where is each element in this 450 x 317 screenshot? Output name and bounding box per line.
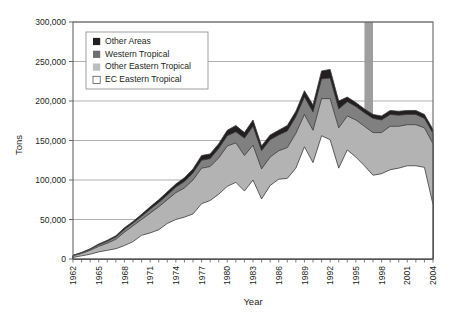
x-axis-tick-label: 1986: [274, 266, 284, 285]
legend-label-western-tropical: Western Tropical: [105, 49, 169, 59]
chart-legend: Other AreasWestern TropicalOther Eastern…: [86, 32, 208, 89]
y-axis-tick-label: 0: [61, 254, 66, 264]
y-axis-tick-label: 50,000: [40, 215, 66, 225]
x-axis-title: Year: [243, 296, 262, 307]
x-axis-tick-label: 1965: [94, 266, 104, 285]
y-axis-tick-label: 250,000: [35, 57, 66, 67]
y-axis-tick-label: 200,000: [35, 96, 66, 106]
x-axis-tick-label: 2004: [428, 266, 438, 285]
legend-swatch-western-tropical: [93, 51, 100, 58]
x-axis-tick-label: 1992: [325, 266, 335, 285]
x-axis-tick-label: 1962: [68, 266, 78, 285]
legend-label-other-areas: Other Areas: [105, 36, 151, 46]
x-axis-tick-label: 1977: [197, 266, 207, 285]
x-axis-tick-label: 1971: [145, 266, 155, 285]
y-axis-tick-label: 300,000: [35, 17, 66, 27]
x-axis-tick-label: 1983: [248, 266, 258, 285]
stacked-area-chart: 050,000100,000150,000200,000250,000300,0…: [0, 0, 450, 317]
y-axis-title: Tons: [13, 135, 24, 155]
x-axis-tick-label: 1998: [377, 266, 387, 285]
legend-swatch-other-areas: [93, 38, 100, 45]
legend-swatch-other-eastern-tropical: [93, 64, 100, 71]
chart-container: 050,000100,000150,000200,000250,000300,0…: [0, 0, 450, 317]
legend-swatch-ec-eastern-tropical: [93, 76, 100, 83]
x-axis-tick-label: 1974: [171, 266, 181, 285]
x-axis-tick-label: 1995: [351, 266, 361, 285]
x-axis-tick-label: 1989: [300, 266, 310, 285]
x-axis-labels: 1962196519681971197419771980198319861989…: [68, 266, 438, 285]
x-axis-tick-label: 1968: [120, 266, 130, 285]
y-axis-tick-label: 150,000: [35, 136, 66, 146]
x-axis-tick-label: 2001: [402, 266, 412, 285]
legend-label-ec-eastern-tropical: EC Eastern Tropical: [105, 74, 182, 84]
y-axis-tick-label: 100,000: [35, 175, 66, 185]
x-axis-tick-label: 1980: [222, 266, 232, 285]
legend-label-other-eastern-tropical: Other Eastern Tropical: [105, 61, 191, 71]
